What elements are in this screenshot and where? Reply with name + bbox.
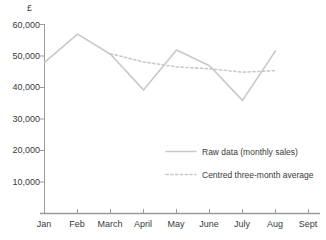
legend-label-centred-average: Centred three-month average <box>202 170 314 180</box>
y-axis <box>40 24 45 213</box>
series-centred-average-line <box>111 54 276 72</box>
line-chart: £ 60,000 50,000 40,000 30,000 20,000 10,… <box>0 0 326 240</box>
chart-plot-area <box>0 0 326 240</box>
legend <box>166 152 196 175</box>
legend-label-raw-data: Raw data (monthly sales) <box>202 147 298 157</box>
x-axis <box>40 209 320 214</box>
series-raw-data-line <box>45 34 276 100</box>
